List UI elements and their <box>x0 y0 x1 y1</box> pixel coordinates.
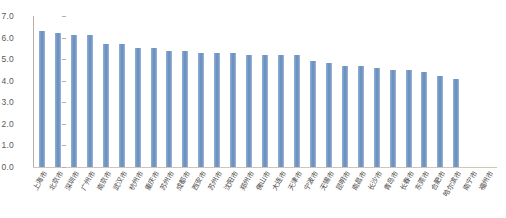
bar <box>342 66 348 167</box>
category-slot: 大连市 <box>273 168 289 218</box>
category-label: 无锡市 <box>318 170 335 192</box>
bar <box>374 68 380 167</box>
x-axis-category-labels: 上海市北京市深圳市广州市南京市武汉市杭州市重庆市苏州市成都市西安市苏州市沈阳市郑… <box>34 168 496 218</box>
bar-slot <box>353 16 369 167</box>
bar <box>55 33 61 167</box>
category-label: 长沙市 <box>366 170 383 192</box>
category-slot: 杭州市 <box>130 168 146 218</box>
bar <box>103 44 109 167</box>
category-label: 杭州市 <box>127 170 144 192</box>
category-slot: 昆明市 <box>337 168 353 218</box>
bar <box>39 31 45 167</box>
category-slot: 东莞市 <box>417 168 433 218</box>
category-label: 苏州市 <box>207 170 224 192</box>
category-slot: 深圳市 <box>66 168 82 218</box>
bar-slot <box>98 16 114 167</box>
bar-slot <box>50 16 66 167</box>
bar-slot <box>34 16 50 167</box>
category-label: 广州市 <box>79 170 96 192</box>
y-tick-label: 0.0 <box>2 162 14 172</box>
category-slot: 上海市 <box>34 168 50 218</box>
bar <box>166 51 172 167</box>
category-label: 重庆市 <box>143 170 160 192</box>
category-slot: 北京市 <box>50 168 66 218</box>
y-tick-label: 7.0 <box>2 11 14 21</box>
category-label: 沈阳市 <box>223 170 240 192</box>
category-label: 南京市 <box>95 170 112 192</box>
y-tick-label: 1.0 <box>2 140 14 150</box>
category-slot: 宁波市 <box>305 168 321 218</box>
category-slot: 福州市 <box>480 168 496 218</box>
bar-slot <box>82 16 98 167</box>
bar <box>326 63 332 167</box>
category-slot: 长春市 <box>401 168 417 218</box>
category-label: 长春市 <box>398 170 415 192</box>
bar <box>294 55 300 167</box>
category-slot: 西安市 <box>193 168 209 218</box>
category-label: 南昌市 <box>350 170 367 192</box>
bar <box>135 48 141 167</box>
bar-slot <box>480 16 496 167</box>
category-label: 宁波市 <box>302 170 319 192</box>
bar <box>437 76 443 167</box>
category-slot: 成都市 <box>177 168 193 218</box>
category-label: 郑州市 <box>239 170 256 192</box>
category-slot: 苏州市 <box>209 168 225 218</box>
category-slot: 郑州市 <box>241 168 257 218</box>
category-slot: 沈阳市 <box>225 168 241 218</box>
category-label: 大连市 <box>271 170 288 192</box>
category-label: 东莞市 <box>414 170 431 192</box>
category-label: 西安市 <box>191 170 208 192</box>
bar-chart: 0.01.02.03.04.05.06.07.0 上海市北京市深圳市广州市南京市… <box>0 0 506 218</box>
y-tick-label: 3.0 <box>2 97 14 107</box>
bar <box>390 70 396 167</box>
bar-slot <box>369 16 385 167</box>
category-slot: 广州市 <box>82 168 98 218</box>
bar <box>310 61 316 167</box>
bar-series <box>34 16 496 167</box>
bar <box>358 66 364 167</box>
category-slot: 天津市 <box>289 168 305 218</box>
bar-slot <box>464 16 480 167</box>
bar-slot <box>225 16 241 167</box>
bar-slot <box>401 16 417 167</box>
category-label: 福州市 <box>478 170 495 192</box>
bar-slot <box>114 16 130 167</box>
bar <box>453 79 459 167</box>
bar-slot <box>241 16 257 167</box>
y-tick-label: 2.0 <box>2 119 14 129</box>
category-slot: 武汉市 <box>114 168 130 218</box>
category-slot: 重庆市 <box>146 168 162 218</box>
category-slot: 南昌市 <box>353 168 369 218</box>
bar-slot <box>162 16 178 167</box>
bar <box>198 53 204 167</box>
bar-slot <box>305 16 321 167</box>
y-tick-label: 4.0 <box>2 76 14 86</box>
category-slot: 长沙市 <box>369 168 385 218</box>
category-slot: 哈尔滨市 <box>448 168 464 218</box>
bar-slot <box>130 16 146 167</box>
category-slot: 南京市 <box>98 168 114 218</box>
category-slot: 苏州市 <box>162 168 178 218</box>
bar-slot <box>177 16 193 167</box>
bar <box>214 53 220 167</box>
bar <box>151 48 157 167</box>
bar-slot <box>321 16 337 167</box>
category-label: 上海市 <box>31 170 48 192</box>
bar-slot <box>289 16 305 167</box>
bar-slot <box>448 16 464 167</box>
category-slot: 佛山市 <box>257 168 273 218</box>
category-label: 天津市 <box>286 170 303 192</box>
bar <box>262 55 268 167</box>
bar-slot <box>432 16 448 167</box>
bar <box>182 51 188 167</box>
category-label: 青岛市 <box>382 170 399 192</box>
category-slot: 南宁市 <box>464 168 480 218</box>
category-label: 成都市 <box>175 170 192 192</box>
bar-slot <box>193 16 209 167</box>
bar <box>119 44 125 167</box>
bar <box>87 35 93 167</box>
bar <box>278 55 284 167</box>
category-label: 佛山市 <box>255 170 272 192</box>
category-label: 武汉市 <box>111 170 128 192</box>
